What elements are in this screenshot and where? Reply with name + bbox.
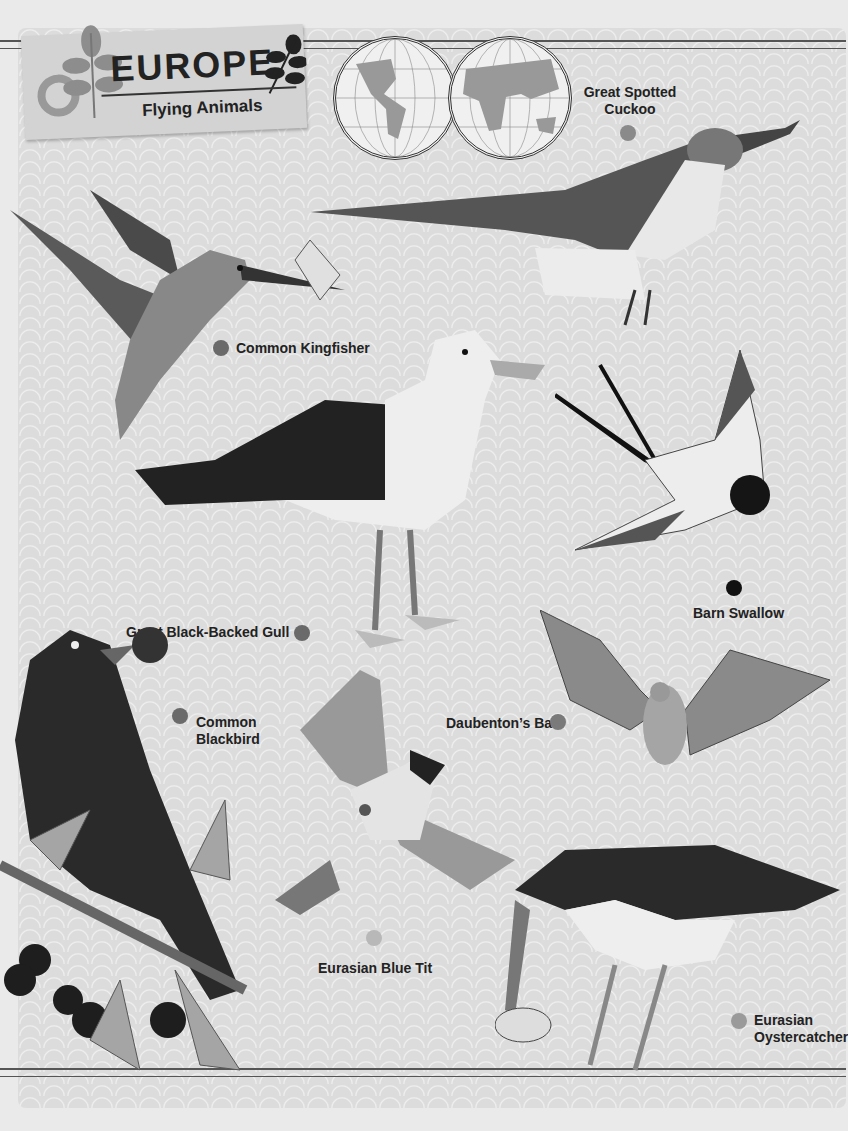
color-dot-blackbird [172, 708, 188, 724]
region-title: EUROPE [109, 41, 275, 90]
label-line: Eurasian [754, 1012, 848, 1029]
daubentons-bat-illustration [540, 610, 830, 810]
color-dot-swallow [726, 580, 742, 596]
label-line: Great Spotted [577, 84, 683, 101]
label-line: Oystercatcher [754, 1029, 848, 1046]
label-line: Cuckoo [577, 101, 683, 118]
color-dot-blue-tit [366, 930, 382, 946]
title-tag: EUROPE Flying Animals [21, 24, 307, 140]
barn-swallow-illustration [555, 350, 785, 580]
color-dot-oystercatcher [731, 1013, 747, 1029]
great-spotted-cuckoo-illustration [305, 120, 805, 330]
label-line: Common [196, 714, 260, 731]
label-common-blackbird: Common Blackbird [196, 714, 260, 748]
color-dot-gull [294, 625, 310, 641]
great-black-backed-gull-illustration [135, 330, 550, 650]
category-subtitle: Flying Animals [142, 96, 263, 121]
label-great-spotted-cuckoo: Great Spotted Cuckoo [577, 84, 683, 118]
color-dot-bat [550, 714, 566, 730]
eurasian-blue-tit-illustration [270, 670, 520, 920]
common-blackbird-illustration [0, 620, 260, 1100]
label-eurasian-oystercatcher: Eurasian Oystercatcher [754, 1012, 848, 1046]
label-daubentons-bat: Daubenton’s Bat [446, 715, 557, 732]
label-line: Blackbird [196, 731, 260, 748]
label-eurasian-blue-tit: Eurasian Blue Tit [318, 960, 432, 977]
color-dot-cuckoo [620, 125, 636, 141]
